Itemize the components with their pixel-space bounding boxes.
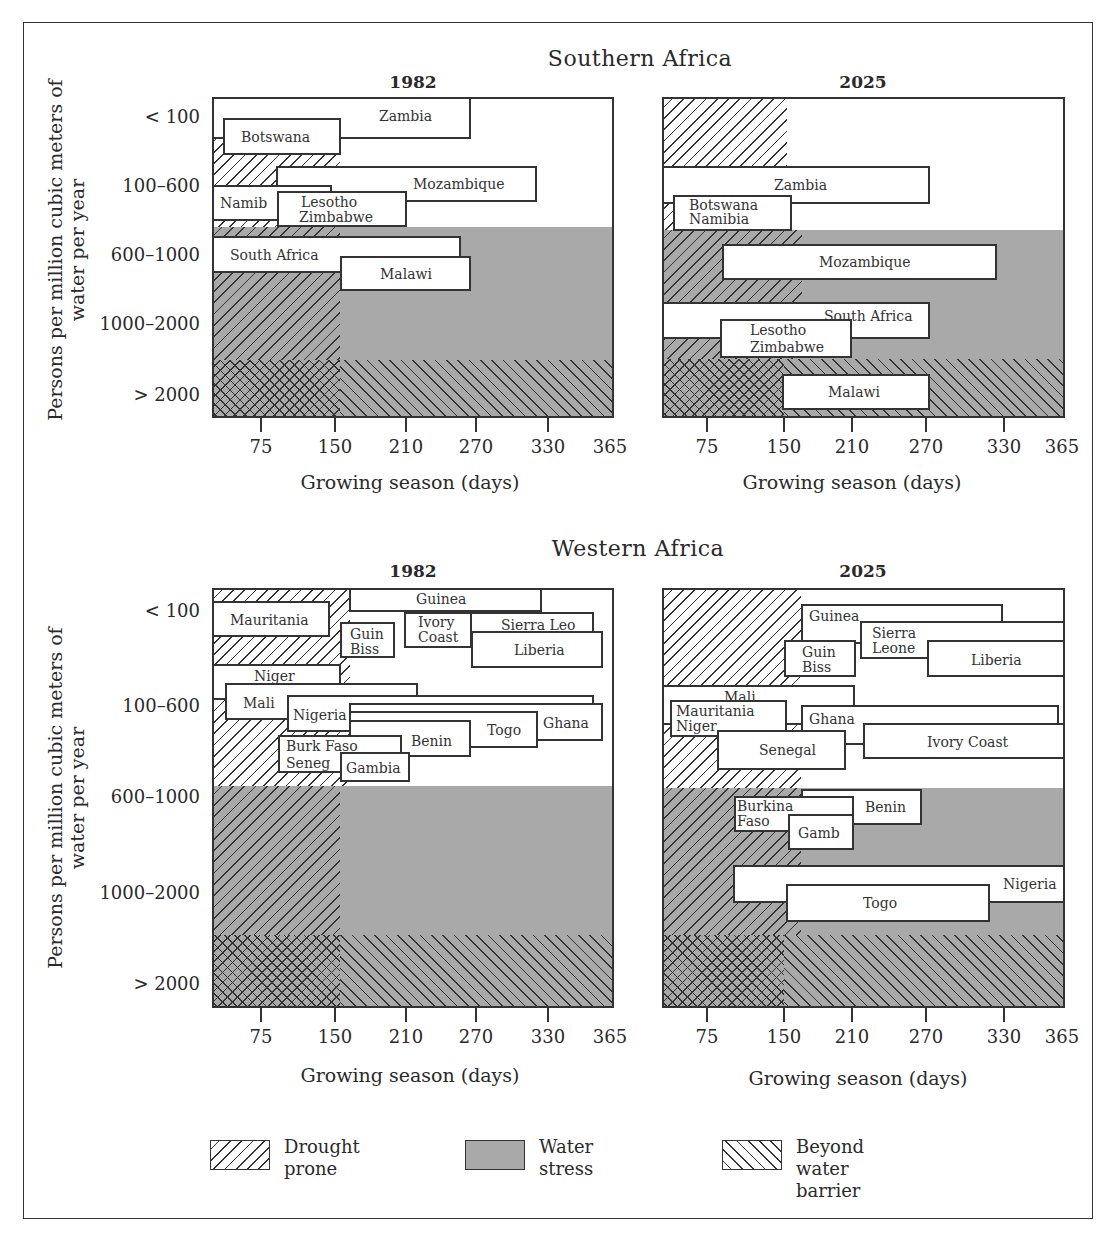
zone-drought-barrier [664,935,784,1008]
zone-beyond-barrier [784,935,1065,1008]
country-box-botswana: Botswana [223,118,341,155]
country-box-liberia: Liberia [471,631,603,668]
plot-southern-1982: Zambia Botswana Mozambique Namib Lesotho… [212,97,614,418]
x-axis-southern-2025: 75 150 210 270 330 365 [662,418,1065,458]
zone-beyond-barrier [340,935,614,1008]
x-axis-western-1982: 75 150 210 270 330 365 [212,1008,614,1048]
x-axis-label-western-1982: Growing season (days) [210,1064,610,1086]
zone-drought-barrier [664,359,784,418]
year-label-western-1982: 1982 [363,561,463,581]
ytick-600-1000: 600–1000 [70,786,200,807]
country-box-malawi: Malawi [340,256,471,291]
plot-southern-2025: Zambia BotswanaNamibia Mozambique South … [662,97,1065,418]
water-stress-swatch-icon [465,1140,525,1170]
y-axis-label-line1: Persons per million cubic meters of [44,65,66,435]
year-label-western-2025: 2025 [813,561,913,581]
x-axis-label-southern-2025: Growing season (days) [652,471,1052,493]
y-axis-label-line1: Persons per million cubic meters of [44,613,66,983]
ytick-1000-2000: 1000–2000 [70,313,200,334]
plot-western-2025: Guinea Sierra Leone Guin Biss Liberia Ma… [662,588,1065,1008]
zone-beyond-barrier [340,360,614,418]
ytick-1000-2000: 1000–2000 [70,882,200,903]
country-box-botswana-namibia: BotswanaNamibia [673,195,792,231]
country-box-guin-biss: Guin Biss [340,622,395,658]
ytick-lt100: < 100 [70,106,200,127]
zone-drought-stress [214,786,340,936]
country-box-gambia: Gambia [340,752,410,782]
legend-beyond-water-barrier: Beyondwaterbarrier [722,1136,864,1202]
country-box-mauritania: Mauritania [212,601,330,637]
drought-swatch-icon [210,1140,270,1170]
country-box-guinea: Guinea [349,588,542,612]
legend-water-stress: Waterstress [465,1136,593,1180]
ytick-lt100: < 100 [70,600,200,621]
region-title-southern: Southern Africa [440,46,840,71]
zone-drought-barrier [214,360,340,418]
plot-western-1982: Guinea Mauritania Sierra Leo Ivory Coast… [212,588,614,1008]
country-box-gamb: Gamb [788,814,854,850]
ytick-gt2000: > 2000 [70,973,200,994]
year-label-southern-2025: 2025 [813,72,913,92]
region-title-western: Western Africa [438,536,838,561]
ytick-600-1000: 600–1000 [70,244,200,265]
beyond-barrier-swatch-icon [722,1140,782,1170]
country-box-lesotho-zimbabwe: LesothoZimbabwe [277,191,407,227]
country-box-liberia: Liberia [927,640,1065,677]
x-axis-label-southern-1982: Growing season (days) [210,471,610,493]
x-axis-southern-1982: 75 150 210 270 330 365 [212,418,614,458]
country-box-senegal: Senegal [717,730,846,770]
country-box-malawi: Malawi [782,374,930,410]
year-label-southern-1982: 1982 [363,72,463,92]
zone-drought-barrier [214,935,340,1008]
legend-drought-prone: Droughtprone [210,1136,360,1180]
ytick-100-600: 100–600 [70,695,200,716]
country-box-togo: Togo [786,884,990,922]
country-box-guin-biss: Guin Biss [784,640,856,677]
country-box-ivory-coast: Ivory Coast [863,723,1065,759]
zone-water-stress [340,786,614,936]
country-box-mozambique: Mozambique [722,244,997,280]
country-box-lesotho-zimbabwe: LesothoZimbabwe [720,319,852,358]
x-axis-label-western-2025: Growing season (days) [658,1067,1058,1089]
x-axis-western-2025: 75 150 210 270 330 365 [662,1008,1065,1048]
ytick-100-600: 100–600 [70,175,200,196]
country-box-ivory-coast: Ivory Coast [404,612,472,648]
ytick-gt2000: > 2000 [70,384,200,405]
